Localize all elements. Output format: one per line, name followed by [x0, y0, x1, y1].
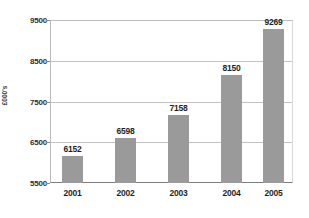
chart-title — [0, 0, 309, 1]
y-tick-label: 6500 — [7, 138, 47, 147]
bar-chart: £000's 9500 8500 7500 6500 5500 6152 659… — [0, 0, 309, 218]
y-axis-title: £000's — [1, 76, 8, 116]
bar-2005 — [263, 29, 284, 183]
bar-value-2002: 6598 — [105, 126, 146, 136]
bar-value-2005: 9269 — [253, 17, 294, 27]
bar-2003 — [168, 115, 189, 183]
bar-value-2003: 7158 — [158, 103, 199, 113]
bar-value-2004: 8150 — [211, 63, 252, 73]
y-tick-mark — [46, 183, 50, 184]
x-tick-label-2001: 2001 — [52, 188, 93, 198]
bar-2001 — [62, 156, 83, 183]
gridline — [51, 61, 292, 62]
bar-2004 — [221, 75, 242, 183]
x-tick-label-2004: 2004 — [211, 188, 252, 198]
x-tick-label-2003: 2003 — [158, 188, 199, 198]
y-tick-label: 9500 — [7, 16, 47, 25]
y-tick-label: 8500 — [7, 57, 47, 66]
y-tick-label: 7500 — [7, 98, 47, 107]
x-tick-label-2005: 2005 — [253, 188, 294, 198]
y-tick-label: 5500 — [7, 179, 47, 188]
x-tick-label-2002: 2002 — [105, 188, 146, 198]
bar-2002 — [115, 138, 136, 183]
bar-value-2001: 6152 — [52, 144, 93, 154]
